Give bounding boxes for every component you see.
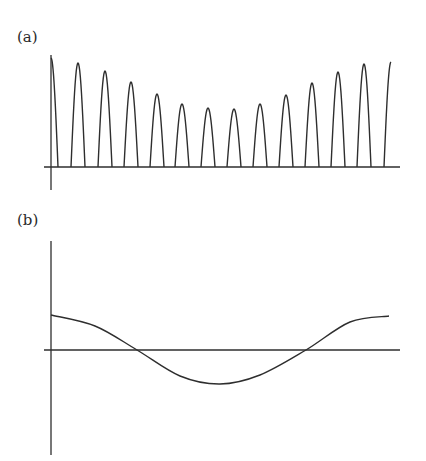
figure: (a) (b) [0, 0, 426, 461]
panel-a-plot [44, 55, 400, 190]
figure-svg [0, 0, 426, 461]
panel-b-plot [44, 241, 400, 455]
panel-a-arches [51, 58, 391, 167]
